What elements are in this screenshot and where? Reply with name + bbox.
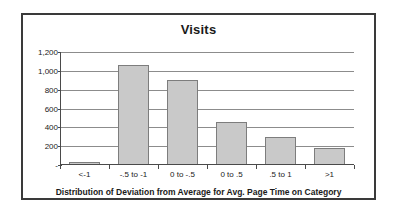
bar[interactable] [167,80,197,165]
x-axis-line [60,164,354,165]
bar[interactable] [216,122,246,165]
bar-slot [60,52,109,165]
x-tick-label: >1 [305,170,354,179]
x-tick-mark [60,165,61,169]
x-tick-label: 0 to .5 [207,170,256,179]
x-tick-mark [305,165,306,169]
x-tick-label: .5 to 1 [256,170,305,179]
x-tick-mark [109,165,110,169]
y-axis-labels: 1,2001,000800600400200- [23,52,58,165]
y-tick-label: - [24,161,58,170]
bar-slot [109,52,158,165]
plot-area [60,52,354,165]
x-tick-label: -.5 to -1 [109,170,158,179]
x-tick-mark [354,165,355,169]
bar-slot [158,52,207,165]
bar-slot [305,52,354,165]
chart-frame: Visits 1,2001,000800600400200- <-1-.5 to… [21,13,376,200]
bar-slot [256,52,305,165]
y-tick-label: 600 [24,104,58,113]
y-axis-line [60,52,61,165]
x-tick-mark [256,165,257,169]
bar[interactable] [265,137,295,165]
bars-layer [60,52,354,165]
x-tick-label: <-1 [60,170,109,179]
y-tick-label: 800 [24,85,58,94]
x-tick-label: 0 to -.5 [158,170,207,179]
y-tick-label: 1,000 [24,66,58,75]
x-tick-mark [207,165,208,169]
bar[interactable] [314,148,344,165]
bar-slot [207,52,256,165]
y-tick-label: 400 [24,123,58,132]
bar[interactable] [118,65,148,165]
y-tick-label: 200 [24,142,58,151]
chart-title: Visits [23,22,374,37]
x-axis-labels: <-1-.5 to -10 to -.50 to .5.5 to 1>1 [60,170,354,184]
x-axis-title: Distribution of Deviation from Average f… [23,187,374,197]
y-tick-label: 1,200 [24,48,58,57]
x-tick-mark [158,165,159,169]
